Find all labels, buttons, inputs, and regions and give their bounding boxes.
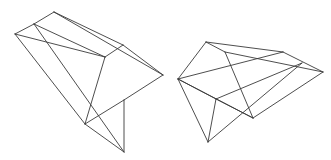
edge-H-I [85, 124, 124, 152]
edge-B-F [34, 24, 105, 57]
wireframe-drawing [0, 0, 331, 160]
edge-R-U [225, 52, 323, 72]
edge-C-D [54, 12, 123, 45]
edge-V-X [208, 99, 216, 142]
edge-B-I [34, 24, 124, 152]
right-polyhedron [178, 42, 323, 142]
edge-P-X [178, 79, 208, 142]
edge-E-G [124, 75, 163, 100]
diagram-canvas [0, 0, 331, 160]
edge-A-F [15, 34, 105, 57]
edge-D-E [123, 45, 163, 75]
edge-S-U [283, 52, 323, 72]
edge-P-S [178, 52, 283, 79]
left-polyhedron [15, 12, 163, 152]
edge-P-Q [178, 42, 206, 79]
edge-B-C [34, 12, 54, 24]
edge-P-W [178, 79, 253, 118]
edge-Q-S [206, 42, 283, 52]
edge-V-T [216, 63, 302, 99]
edge-C-E [54, 12, 163, 75]
edge-A-B [15, 24, 34, 34]
